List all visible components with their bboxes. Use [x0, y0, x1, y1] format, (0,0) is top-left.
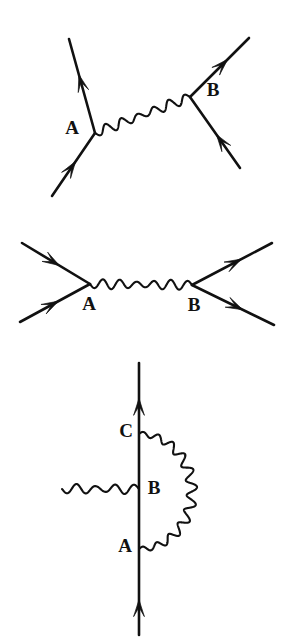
vertex-label-b-diagram-2: B — [188, 294, 201, 315]
photon-exchanged-photon — [90, 279, 192, 289]
photon-exchanged-photon — [95, 95, 190, 136]
arrow-head-outgoing-upper-right-0 — [224, 259, 242, 272]
feynman-diagram-figure: A B A B C B A — [0, 0, 288, 640]
vertex-label-a-diagram-3: A — [118, 535, 132, 556]
vertex-label-b-diagram-1: B — [207, 79, 220, 100]
fermion-outgoing-right — [190, 38, 249, 97]
vertex-label-a-diagram-1: A — [65, 117, 79, 138]
diagram-canvas: A B A B C B A — [0, 0, 288, 640]
vertex-label-a-diagram-2: A — [82, 293, 96, 314]
photon-incoming-external-photon — [62, 484, 139, 494]
vertex-label-b-diagram-3: B — [148, 477, 161, 498]
arrow-head-incoming-lower-left-0 — [41, 301, 59, 314]
diagram-3-vertex-correction — [62, 363, 197, 635]
vertex-label-c-diagram-3: C — [119, 420, 133, 441]
fermion-outgoing-upper-right — [192, 243, 272, 285]
fermion-outgoing-lower-right — [192, 285, 274, 325]
fermion-incoming-right — [190, 97, 240, 168]
diagram-1-tree-level-scattering — [52, 38, 249, 196]
diagram-2-annihilation-channel — [20, 243, 274, 325]
